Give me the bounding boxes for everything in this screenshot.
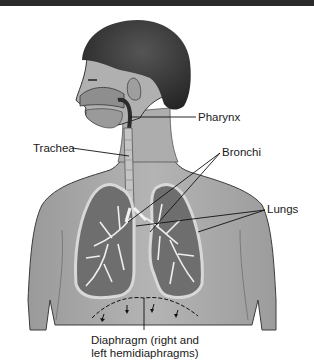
label-diaphragm-line1: Diaphragm (right and: [75, 334, 215, 347]
respiratory-system-illustration: [0, 0, 314, 361]
label-diaphragm: Diaphragm (right and left hemidiaphragms…: [75, 334, 215, 360]
label-lungs: Lungs: [267, 203, 298, 215]
label-trachea: Trachea: [33, 142, 75, 154]
label-diaphragm-line2: left hemidiaphragms): [75, 347, 215, 360]
label-bronchi: Bronchi: [222, 146, 261, 158]
label-pharynx: Pharynx: [198, 111, 240, 123]
